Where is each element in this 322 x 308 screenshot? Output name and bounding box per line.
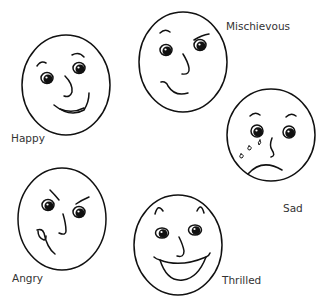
angry-face-icon [18,168,106,270]
happy-label: Happy [11,132,45,144]
sad-face-icon [227,89,315,181]
sad-label: Sad [283,202,303,214]
faces-drawing [0,0,322,308]
thrilled-label: Thrilled [222,274,261,286]
emotion-faces-illustration: Happy Mischievous Sad Angry Thrilled [0,0,322,308]
mischievous-face-icon [139,12,227,112]
mischievous-label: Mischievous [226,20,290,32]
happy-face-icon [22,35,110,135]
angry-label: Angry [12,272,43,284]
thrilled-face-icon [134,195,222,295]
